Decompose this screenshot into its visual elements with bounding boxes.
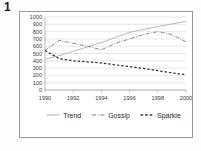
figure-number-label: 1 <box>4 1 11 13</box>
series-line-sparkle <box>45 51 186 75</box>
x-axis-tick-label: 1996 <box>123 95 135 101</box>
y-axis-tick-label: 400 <box>33 58 42 64</box>
chart-frame: 10009008007006005004003002001000 1990199… <box>19 11 193 138</box>
y-axis-tick-label: 200 <box>33 72 42 78</box>
y-axis-tick-label: 500 <box>33 51 42 57</box>
y-axis-tick-label: 100 <box>33 80 42 86</box>
x-axis-tick-labels: 199019921994199619982000 <box>39 95 192 101</box>
y-axis-tick-label: 700 <box>33 36 42 42</box>
y-axis-tick-label: 300 <box>33 65 42 71</box>
y-axis-tick-label: 800 <box>33 29 42 35</box>
legend-label-trend: Trend <box>63 112 81 119</box>
line-chart: 10009008007006005004003002001000 1990199… <box>20 12 192 137</box>
y-axis-tick-labels: 10009008007006005004003002001000 <box>30 14 42 93</box>
data-series-group <box>45 21 186 74</box>
legend-label-sparkle: Sparkle <box>157 112 181 120</box>
y-axis-tick-label: 1000 <box>30 14 42 20</box>
x-axis-tick-label: 1998 <box>152 95 164 101</box>
chart-legend: TrendGossipSparkle <box>47 112 181 120</box>
x-axis-tick-label: 1990 <box>39 95 51 101</box>
series-line-gossip <box>45 32 186 51</box>
figure-container: 1 10009008007006005004003002001000 19901… <box>0 0 201 151</box>
y-axis-tick-label: 900 <box>33 21 42 27</box>
axis-lines-group <box>45 17 186 93</box>
y-axis-tick-label: 0 <box>39 87 42 93</box>
legend-label-gossip: Gossip <box>108 112 130 120</box>
x-axis-tick-label: 2000 <box>180 95 192 101</box>
x-axis-tick-label: 1992 <box>67 95 79 101</box>
x-axis-tick-label: 1994 <box>95 95 107 101</box>
chart-plot-area: 10009008007006005004003002001000 1990199… <box>20 12 192 137</box>
y-axis-tick-label: 600 <box>33 43 42 49</box>
